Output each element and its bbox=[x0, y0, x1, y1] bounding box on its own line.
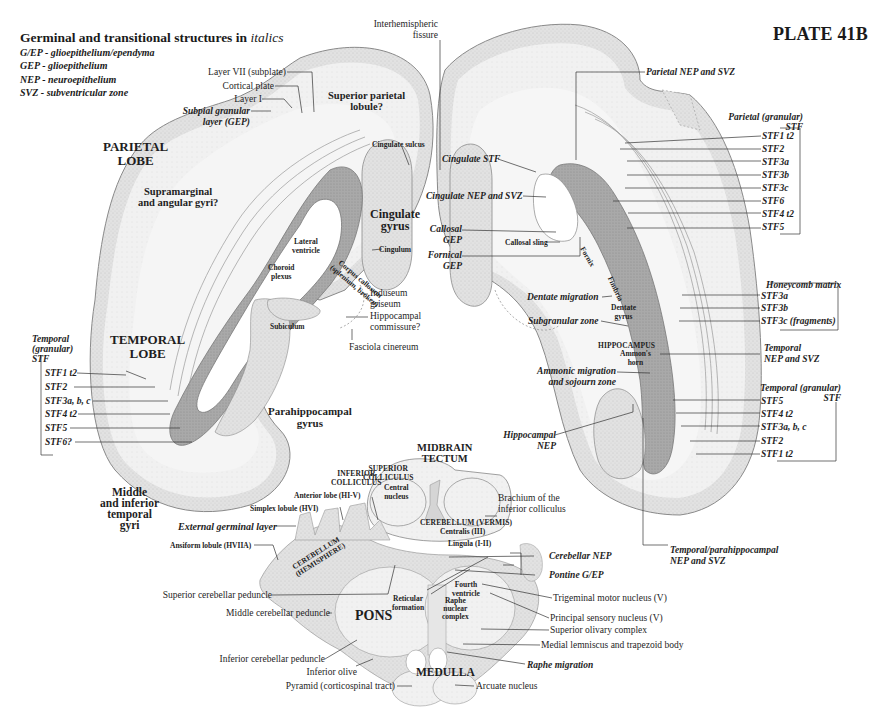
label-inferior-cerebellar-peduncle: Inferior cerebellar peduncle bbox=[220, 654, 326, 665]
label-callosal-sling: Callosal sling bbox=[505, 238, 548, 247]
label-temporal-nep-svz: Temporal NEP and SVZ bbox=[764, 343, 820, 365]
legend-item-gep-ep: G/EP - glioepithelium/ependyma bbox=[20, 47, 155, 58]
label-cingulate-nep-svz: Cingulate NEP and SVZ bbox=[426, 191, 523, 202]
legend-title-emphasis: italics bbox=[250, 30, 283, 45]
left-temporal-stf1: STF1 t2 bbox=[45, 368, 77, 379]
honeycomb-stf3a: STF3a bbox=[761, 291, 788, 302]
label-pons: PONS bbox=[355, 610, 392, 621]
label-inferior-olive: Inferior olive bbox=[307, 667, 357, 678]
left-temporal-stf5: STF5 bbox=[45, 423, 67, 434]
label-pontine-gep: Pontine G/EP bbox=[549, 570, 604, 581]
label-ammons-horn: Ammon's horn bbox=[620, 349, 651, 367]
label-ammonic-migration: Ammonic migration and sojourn zone bbox=[537, 366, 616, 388]
right-temporal-stf3: STF3a, b, c bbox=[761, 422, 806, 433]
label-pyramid: Pyramid (corticospinal tract) bbox=[286, 681, 395, 692]
label-external-germinal-layer: External germinal layer bbox=[178, 521, 277, 532]
label-cerebellar-nep: Cerebellar NEP bbox=[549, 551, 612, 562]
label-cingulate-sulcus: Cingulate sulcus bbox=[372, 140, 425, 149]
legend-title-prefix: Germinal and transitional structures in bbox=[20, 30, 250, 45]
label-brachium-inferior-colliculus: Brachium of the inferior colliculus bbox=[498, 493, 566, 515]
right-hemisphere bbox=[437, 24, 762, 515]
plate-title: PLATE 41B bbox=[773, 24, 868, 45]
label-dentate-migration: Dentate migration bbox=[527, 292, 599, 303]
label-central-nucleus: Central nucleus bbox=[384, 483, 409, 501]
right-parietal-stf5: STF5 bbox=[762, 222, 784, 233]
label-interhemispheric-fissure: Interhemispheric fissure bbox=[374, 19, 438, 41]
label-fornical-gep: Fornical GEP bbox=[428, 250, 462, 272]
label-layer-vii: Layer VII (subplate) bbox=[208, 67, 286, 78]
left-temporal-stf-header: Temporal (granular) STF bbox=[32, 334, 73, 364]
legend-title: Germinal and transitional structures in … bbox=[20, 30, 283, 46]
label-superior-olivary-complex: Superior olivary complex bbox=[550, 625, 647, 636]
left-temporal-stf4: STF4 t2 bbox=[45, 409, 77, 420]
right-parietal-stf1: STF1 t2 bbox=[762, 131, 794, 142]
honeycomb-stf3c: STF3c (fragments) bbox=[761, 316, 836, 327]
honeycomb-stf3b: STF3b bbox=[761, 303, 788, 314]
legend-item-gep: GEP - glioepithelium bbox=[20, 60, 107, 71]
label-callosal-gep: Callosal GEP bbox=[430, 224, 462, 246]
label-middle-inferior-temporal-gyri: Middle and inferior temporal gyri bbox=[100, 487, 159, 531]
label-medulla: MEDULLA bbox=[416, 667, 475, 678]
right-parietal-stf4: STF4 t2 bbox=[762, 209, 794, 220]
label-raphe-migration: Raphe migration bbox=[527, 660, 593, 671]
label-parahippocampal-gyrus: Parahippocampal gyrus bbox=[268, 405, 352, 429]
label-ansiform-lobule: Ansiform lobule (HVIIA) bbox=[170, 541, 251, 550]
label-supramarginal-gyri: Supramarginal and angular gyri? bbox=[138, 186, 218, 208]
label-cingulate-gyrus: Cingulate gyrus bbox=[370, 208, 420, 232]
right-temporal-stf1: STF1 t2 bbox=[761, 449, 793, 460]
right-parietal-stf3a: STF3a bbox=[762, 157, 789, 168]
label-superior-cerebellar-peduncle: Superior cerebellar peduncle bbox=[163, 590, 272, 601]
label-parietal-nep-svz: Parietal NEP and SVZ bbox=[646, 67, 735, 78]
honeycomb-matrix-header: Honeycomb matrix bbox=[766, 280, 841, 291]
label-induseum-griseum: Induseum griseum bbox=[370, 288, 407, 310]
label-reticular-formation: Reticular formation bbox=[392, 594, 424, 612]
label-inferior-colliculus: INFERIOR COLLICULUS bbox=[331, 469, 382, 487]
legend-item-nep: NEP - neuroepithelium bbox=[20, 74, 116, 85]
label-fasciola-cinereum: Fasciola cinereum bbox=[349, 342, 418, 353]
left-temporal-stf3: STF3a, b, c bbox=[45, 396, 90, 407]
label-cortical-plate: Cortical plate bbox=[223, 81, 274, 92]
label-lateral-ventricle: Lateral ventricle bbox=[292, 237, 320, 255]
label-midbrain-tectum: MIDBRAIN TECTUM bbox=[417, 442, 472, 464]
label-middle-cerebellar-peduncle: Middle cerebellar peduncle bbox=[226, 608, 330, 619]
label-temporal-lobe: TEMPORAL LOBE bbox=[110, 333, 185, 361]
label-cingulate-stf: Cingulate STF bbox=[442, 154, 500, 165]
label-dentate-gyrus: Dentate gyrus bbox=[611, 303, 636, 321]
label-subiculum: Subiculum bbox=[270, 322, 305, 331]
label-cingulum: Cingulum bbox=[379, 245, 411, 254]
label-hippocampal-nep: Hippocampal NEP bbox=[503, 430, 556, 452]
label-medial-lemniscus: Medial lemniscus and trapezoid body bbox=[541, 640, 683, 651]
label-lingula: Lingula (I-II) bbox=[448, 539, 491, 548]
right-parietal-stf6: STF6 bbox=[762, 196, 784, 207]
legend-item-svz: SVZ - subventricular zone bbox=[20, 87, 128, 98]
right-temporal-stf4: STF4 t2 bbox=[761, 409, 793, 420]
label-principal-sensory-nucleus: Principal sensory nucleus (V) bbox=[550, 613, 663, 624]
label-raphe-nuclear-complex: Raphe nuclear complex bbox=[442, 597, 469, 621]
label-choroid-plexus: Choroid plexus bbox=[268, 263, 295, 281]
left-temporal-stf2: STF2 bbox=[45, 382, 67, 393]
label-arcuate-nucleus: Arcuate nucleus bbox=[476, 681, 537, 692]
plate-41b-diagram: Germinal and transitional structures in … bbox=[0, 0, 874, 709]
label-hippocampal-commissure: Hippocampal commissure? bbox=[370, 311, 421, 333]
right-parietal-stf3b: STF3b bbox=[762, 170, 789, 181]
label-centralis: Centralis (III) bbox=[440, 527, 485, 536]
label-subgranular-zone: Subgranular zone bbox=[528, 316, 599, 327]
label-superior-parietal-lobule: Superior parietal lobule? bbox=[328, 90, 405, 112]
right-temporal-stf2: STF2 bbox=[761, 436, 783, 447]
left-temporal-stf6: STF6? bbox=[45, 437, 72, 448]
label-anterior-lobe: Anterior lobe (HI-V) bbox=[294, 491, 361, 500]
right-parietal-stf3c: STF3c bbox=[762, 183, 788, 194]
label-temporal-parahippocampal-nep: Temporal/parahippocampal NEP and SVZ bbox=[670, 545, 778, 567]
label-subpial-granular: Subpial granular layer (GEP) bbox=[183, 106, 250, 128]
right-parietal-stf2: STF2 bbox=[762, 144, 784, 155]
label-trigeminal-motor-nucleus: Trigeminal motor nucleus (V) bbox=[553, 593, 667, 604]
label-simplex-lobule: Simplex lobule (HVI) bbox=[250, 504, 318, 513]
label-parietal-lobe: PARIETAL LOBE bbox=[103, 140, 168, 168]
right-parietal-stf-header: Parietal (granular) STF bbox=[728, 112, 803, 132]
label-layer-i: Layer I bbox=[234, 94, 262, 105]
right-temporal-stf5: STF5 bbox=[761, 396, 783, 407]
